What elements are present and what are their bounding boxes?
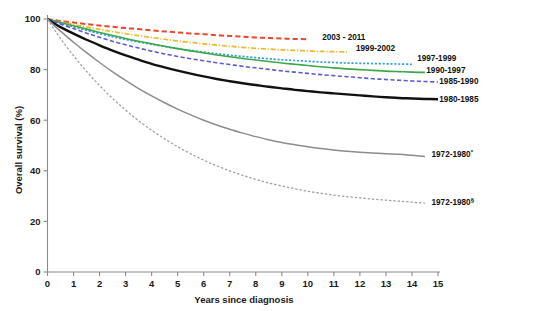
x-tick-label: 6 bbox=[201, 278, 206, 289]
y-tick-label: 60 bbox=[30, 115, 41, 126]
x-tick-label: 11 bbox=[329, 278, 340, 289]
y-tick-label: 0 bbox=[35, 266, 40, 277]
x-tick-label: 15 bbox=[433, 278, 444, 289]
series-label-1990-1997: 1990-1997 bbox=[426, 66, 466, 75]
series-label-1972-1980: 1972-1980* bbox=[431, 149, 473, 159]
x-tick-label: 0 bbox=[45, 278, 50, 289]
x-tick-label: 2 bbox=[97, 278, 102, 289]
x-tick-label: 7 bbox=[227, 278, 232, 289]
x-tick-label: 1 bbox=[71, 278, 77, 289]
series-label-2003-2011: 2003 - 2011 bbox=[322, 33, 366, 42]
x-tick-label: 13 bbox=[381, 278, 392, 289]
series-label-1999-2002: 1999-2002 bbox=[356, 44, 396, 53]
x-tick-label: 10 bbox=[303, 278, 314, 289]
y-tick-label: 100 bbox=[25, 13, 41, 24]
x-tick-label: 8 bbox=[253, 278, 258, 289]
x-tick-label: 14 bbox=[407, 278, 418, 289]
x-tick-label: 3 bbox=[123, 278, 128, 289]
y-tick-label: 20 bbox=[30, 216, 41, 227]
x-tick-label: 5 bbox=[175, 278, 181, 289]
chart-page: 020406080100 0123456789101112131415 2003… bbox=[0, 0, 542, 311]
y-tick-label: 80 bbox=[30, 64, 41, 75]
y-axis-title: Overall survival (%) bbox=[13, 106, 24, 194]
series-label-1997-1999: 1997-1999 bbox=[417, 54, 457, 63]
x-tick-label: 9 bbox=[279, 278, 284, 289]
series-label-1972-1980: 1972-1980§ bbox=[431, 197, 474, 207]
x-axis-title: Years since diagnosis bbox=[194, 294, 293, 305]
x-tick-label: 4 bbox=[149, 278, 155, 289]
x-tick-label: 12 bbox=[355, 278, 366, 289]
y-tick-label: 40 bbox=[30, 165, 41, 176]
series-label-1980-1985: 1980-1985 bbox=[439, 95, 479, 104]
series-label-1985-1990: 1985-1990 bbox=[439, 77, 479, 86]
survival-curve-chart: 020406080100 0123456789101112131415 2003… bbox=[0, 0, 542, 311]
